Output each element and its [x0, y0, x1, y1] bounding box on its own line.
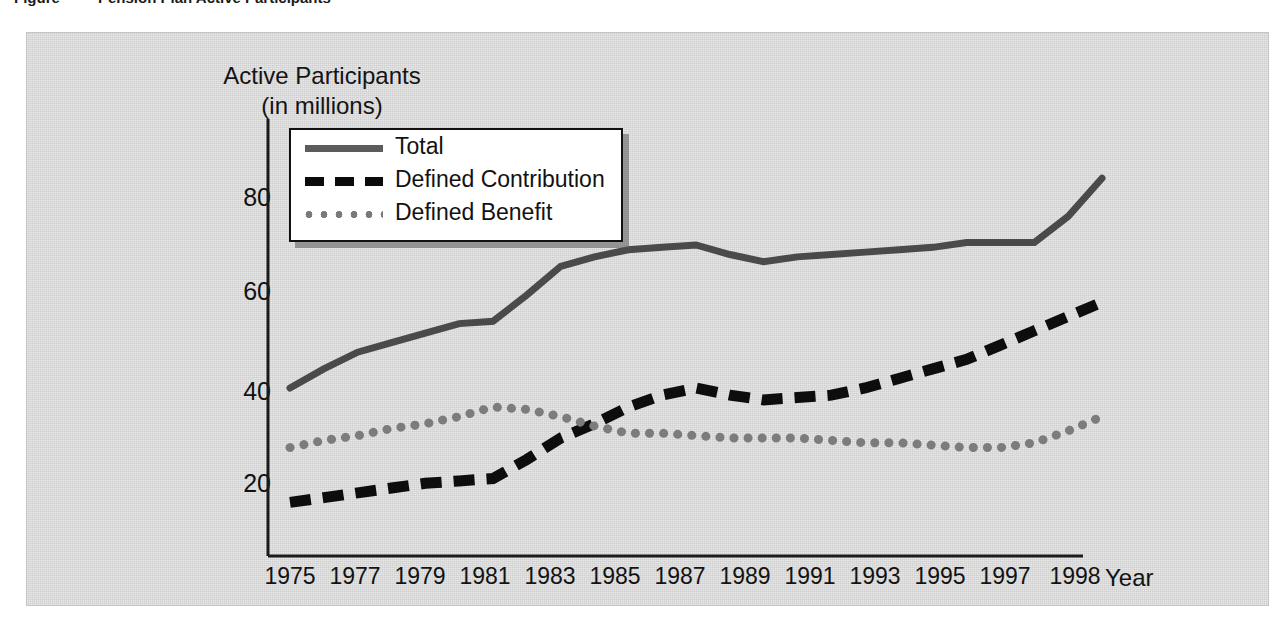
figure-caption-text: Pension Plan Active Participants [64, 0, 331, 6]
legend-label-defined-contribution: Defined Contribution [395, 168, 605, 191]
chart-plot-area [27, 33, 1268, 605]
legend-item-defined-benefit[interactable]: Defined Benefit [291, 196, 621, 229]
legend-label-defined-benefit: Defined Benefit [395, 201, 552, 224]
dashed-line-key-icon [305, 177, 383, 186]
figure-caption: Figure Pension Plan Active Participants [0, 0, 1288, 16]
legend-item-total[interactable]: Total [291, 130, 621, 163]
solid-line-key-icon [305, 145, 383, 152]
chart-figure-panel: Active Participants (in millions) 80 60 … [27, 33, 1268, 605]
dotted-line-key-icon [305, 210, 383, 219]
legend-label-total: Total [395, 135, 444, 158]
figure-caption-label: Figure [14, 0, 60, 6]
series-line-defined-benefit [290, 407, 1102, 448]
legend-item-defined-contribution[interactable]: Defined Contribution [291, 163, 621, 196]
chart-legend: Total Defined Contribution Defined Benef… [289, 128, 623, 242]
series-line-defined-contribution [290, 302, 1102, 502]
